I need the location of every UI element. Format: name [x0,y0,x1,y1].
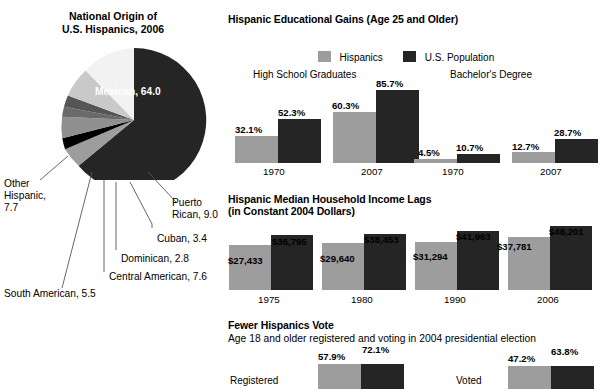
vote-category-label-voted: Voted [456,375,482,386]
year-label-hs-1970: 1970 [263,166,285,177]
value-label-income-1980-us-population: $38,453 [364,234,399,245]
bar-ba-1970-us-population [457,154,500,163]
legend-label-hispanics: Hispanics [339,52,382,63]
value-label-ba-1970-hispanics: 4.5% [418,147,440,158]
value-label-ba-1970-us-population: 10.7% [456,142,483,153]
bar-ba-2007-hispanics [512,152,555,163]
bar-income-1990-hispanics [415,242,457,291]
value-label-vote-registered-hispanics: 57.9% [318,351,345,362]
vote-section-title: Fewer Hispanics Vote [228,320,334,332]
other-hispanic-line-3: 7.7 [4,202,46,214]
bar-hs-1970-hispanics [235,136,278,163]
value-label-hs-2007-us-population: 85.7% [376,78,403,89]
value-label-income-1980-hispanics: $29,640 [320,253,355,264]
pie-label-central-american: Central American, 7.6 [109,271,207,283]
bar-vote-registered-us-population [361,364,404,389]
pie-label-other-hispanic: Other Hispanic, 7.7 [4,178,46,215]
bar-hs-1970-us-population [278,119,321,164]
other-hispanic-line-2: Hispanic, [4,190,46,202]
value-label-vote-voted-hispanics: 47.2% [508,353,535,364]
pie-slice-label-mexican: Mexican, 64.0 [95,86,161,97]
education-group-title-high-school: High School Graduates [253,69,356,80]
value-label-hs-1970-us-population: 52.3% [278,107,305,118]
value-label-income-1990-us-population: $41,963 [456,231,491,242]
vote-group-registered [318,364,404,389]
pie-label-dominican: Dominican, 2.8 [121,253,189,265]
income-subtitle-line: (in Constant 2004 Dollars) [228,206,431,218]
education-group-title-bachelors: Bachelor's Degree [450,69,532,80]
edu-hs-1970-bars [235,83,325,163]
value-label-income-1975-hispanics: $27,433 [228,255,263,266]
year-label-ba-1970: 1970 [442,166,464,177]
value-label-ba-2007-hispanics: 12.7% [512,141,539,152]
value-label-vote-voted-us-population: 63.8% [551,346,578,357]
bar-vote-voted-us-population [551,366,594,389]
year-label-ba-2007: 2007 [540,166,562,177]
bar-ba-2007-us-population [555,139,598,163]
pie-label-south-american: South American, 5.5 [4,288,96,300]
bar-vote-registered-hispanics [318,364,361,389]
puerto-rican-line-2: Rican, 9.0 [172,209,218,221]
year-label-income-1990: 1990 [444,294,466,305]
vote-group-voted [508,366,594,389]
pie-title-line-2: U.S. Hispanics, 2006 [18,23,208,36]
year-label-income-1975: 1975 [258,294,280,305]
year-label-income-2006: 2006 [537,294,559,305]
legend-label-us-population: U.S. Population [425,52,495,63]
bar-income-1980-hispanics [322,243,364,290]
value-label-vote-registered-us-population: 72.1% [362,344,389,355]
income-title-line: Hispanic Median Household Income Lags [228,194,431,206]
puerto-rican-line-1: Puerto [172,197,218,209]
vote-category-label-registered: Registered [230,375,278,386]
value-label-hs-2007-hispanics: 60.3% [332,100,359,111]
pie-chart-title: National Origin of U.S. Hispanics, 2006 [18,10,208,35]
legend-swatch-hispanics [318,51,331,62]
value-label-income-1990-hispanics: $31,294 [413,251,448,262]
value-label-income-1975-us-population: $36,795 [272,236,307,247]
bar-vote-voted-hispanics [508,366,551,389]
value-label-income-2006-us-population: $48,201 [549,226,584,237]
value-label-hs-1970-hispanics: 32.1% [235,124,262,135]
edu-hs-2007-bars [333,83,423,163]
infographic-canvas: National Origin of U.S. Hispanics, 2006 … [0,0,604,389]
year-label-hs-2007: 2007 [361,166,383,177]
value-label-income-2006-hispanics: $37,781 [497,241,532,252]
other-hispanic-line-1: Other [4,178,46,190]
education-legend: Hispanics U.S. Population [318,47,494,65]
pie-label-cuban: Cuban, 3.4 [157,233,207,245]
year-label-income-1980: 1980 [351,294,373,305]
income-section-title: Hispanic Median Household Income Lags (i… [228,194,431,217]
bar-hs-2007-hispanics [333,112,376,163]
legend-swatch-us-population [403,51,416,62]
education-section-title: Hispanic Educational Gains (Age 25 and O… [228,14,458,26]
bar-hs-2007-us-population [376,90,419,163]
value-label-ba-2007-us-population: 28.7% [554,127,581,138]
bar-ba-1970-hispanics [414,159,457,163]
pie-label-puerto-rican: Puerto Rican, 9.0 [172,197,218,221]
bar-income-1975-hispanics [229,245,271,290]
pie-title-line-1: National Origin of [18,10,208,23]
